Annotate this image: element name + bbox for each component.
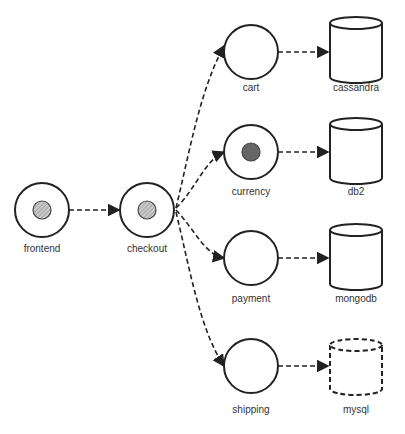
label-payment: payment [206,293,296,304]
label-cart: cart [206,82,296,93]
node-db2 [330,118,382,184]
node-checkout [120,183,174,237]
label-currency: currency [206,186,296,197]
label-frontend: frontend [0,243,87,254]
label-mysql: mysql [311,404,401,415]
edge-checkout-cart [176,46,224,208]
node-mysql [330,339,382,395]
label-checkout: checkout [102,243,192,254]
label-cassandra: cassandra [311,82,401,93]
node-cassandra [330,17,382,83]
node-mongodb [330,224,382,290]
label-db2: db2 [311,186,401,197]
node-frontend [15,183,69,237]
node-cart [224,25,278,79]
node-currency [224,125,278,179]
label-shipping: shipping [206,404,296,415]
edge-checkout-shipping [176,212,224,366]
label-mongodb: mongodb [311,293,401,304]
node-payment [224,231,278,285]
node-shipping [224,339,278,393]
service-dependency-diagram [0,0,405,434]
